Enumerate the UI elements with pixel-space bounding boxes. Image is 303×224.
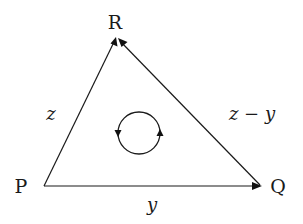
circulation-loop — [118, 112, 160, 154]
loop-arrow-down-icon — [115, 130, 122, 137]
edge-label-p-r: z — [45, 103, 56, 124]
arrowhead-p-r — [111, 37, 118, 47]
arrowhead-p-q — [252, 182, 262, 190]
vertex-label-r: R — [108, 11, 123, 33]
edge-label-q-r: z − y — [228, 103, 276, 124]
arrowhead-q-r — [118, 38, 128, 47]
vertex-label-q: Q — [270, 175, 286, 197]
triangle-diagram: R P Q z z − y y — [0, 0, 303, 224]
edge-label-p-q: y — [146, 194, 158, 215]
vertex-label-p: P — [15, 175, 28, 197]
loop-arrow-up-icon — [157, 129, 164, 136]
